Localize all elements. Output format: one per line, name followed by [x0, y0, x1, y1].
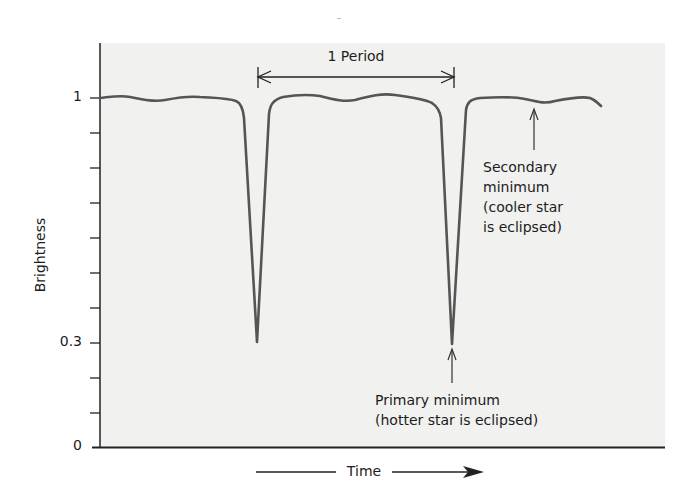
note-line: Secondary: [483, 157, 563, 177]
note-line: (cooler star: [483, 197, 563, 217]
y-ticks: [90, 98, 100, 413]
note-line: Primary minimum: [375, 390, 538, 410]
primary-arrow: [448, 349, 456, 383]
x-axis-label: Time: [347, 463, 381, 479]
y-axis-label: Brightness: [32, 218, 48, 293]
period-arrow: [258, 67, 454, 88]
secondary-arrow: [530, 109, 538, 150]
y-tick-label-1: 1: [42, 88, 82, 104]
secondary-minimum-note: Secondary minimum (cooler star is eclips…: [483, 157, 563, 237]
chart-canvas: [0, 0, 693, 502]
note-line: minimum: [483, 177, 563, 197]
period-label: 1 Period: [327, 48, 384, 64]
primary-minimum-note: Primary minimum (hotter star is eclipsed…: [375, 390, 538, 430]
note-line: (hotter star is eclipsed): [375, 410, 538, 430]
y-tick-label-0: 0: [42, 437, 82, 453]
y-tick-label-0-3: 0.3: [42, 333, 82, 349]
note-line: is eclipsed): [483, 217, 563, 237]
